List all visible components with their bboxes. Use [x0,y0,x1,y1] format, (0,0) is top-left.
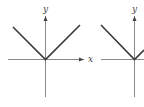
right-y-axis-label: y [131,4,138,14]
right-graph-panel: y [101,4,144,97]
left-graph-panel: x y [8,4,93,97]
figure-canvas: x y y [0,0,144,107]
left-x-axis-label: x [88,54,93,64]
right-v-curve [101,25,144,60]
left-v-curve [13,25,80,60]
left-y-axis-label: y [42,4,49,14]
